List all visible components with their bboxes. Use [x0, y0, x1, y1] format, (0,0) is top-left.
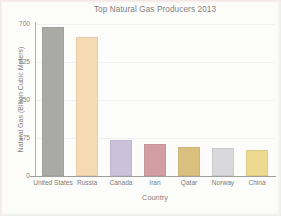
- bar-group: [36, 24, 274, 176]
- y-tick-label: 175: [4, 134, 30, 141]
- bar-slot: [144, 24, 166, 176]
- x-axis-title: Country: [36, 193, 274, 202]
- chart-title: Top Natural Gas Producers 2013: [36, 5, 274, 14]
- bar-russia: [76, 37, 98, 176]
- bar-slot: [76, 24, 98, 176]
- y-tick-label: 350: [4, 96, 30, 103]
- y-tick-label: 700: [4, 20, 30, 27]
- scan-edge-top: [0, 0, 281, 3]
- scan-edge-left: [0, 0, 3, 216]
- scan-edge-bottom: [0, 212, 281, 216]
- bar-norway: [212, 148, 234, 176]
- bar-china: [246, 150, 268, 176]
- bar-iran: [144, 144, 166, 176]
- bar-slot: [178, 24, 200, 176]
- x-axis-line: [30, 176, 276, 177]
- y-tick-label: 525: [4, 58, 30, 65]
- x-tick-label: China: [234, 179, 280, 186]
- bar-qatar: [178, 147, 200, 176]
- bar-united-states: [42, 27, 64, 176]
- chart-screenshot: Top Natural Gas Producers 2013 Natural G…: [0, 0, 281, 216]
- bar-canada: [110, 140, 132, 176]
- bar-slot: [212, 24, 234, 176]
- bar-slot: [42, 24, 64, 176]
- y-tick-label: 0: [4, 172, 30, 179]
- bar-slot: [110, 24, 132, 176]
- bar-slot: [246, 24, 268, 176]
